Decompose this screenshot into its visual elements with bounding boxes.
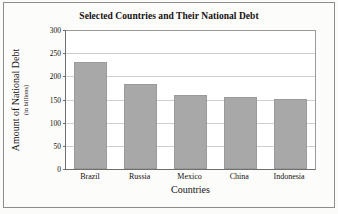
y-tick-label: 100 [37,118,61,127]
x-tick-label-mexico: Mexico [165,172,215,181]
y-tick-label: 150 [37,95,61,104]
y-tick-label: 200 [37,72,61,81]
y-tick-mark [63,123,66,124]
y-tick-label: 300 [37,26,61,35]
x-tick-label-russia: Russia [115,172,165,181]
y-axis-title: Amount of National Debt (in billions) [7,28,33,172]
y-axis-title-units: (in billions) [22,49,29,151]
x-tick-label-indonesia: Indonesia [264,172,314,181]
y-tick-mark [63,169,66,170]
gridline [66,30,315,31]
y-tick-label: 50 [37,141,61,150]
x-axis-title: Countries [65,184,316,195]
plot-area [65,30,316,170]
y-axis-title-main: Amount of National Debt [11,49,22,151]
gridline [66,53,315,54]
bar-brazil [74,62,107,169]
x-tick-label-brazil: Brazil [65,172,115,181]
y-tick-mark [63,146,66,147]
y-tick-mark [63,30,66,31]
chart-title: Selected Countries and Their National De… [0,11,338,21]
y-tick-label: 250 [37,49,61,58]
bar-china [224,97,257,169]
x-tick-label-china: China [214,172,264,181]
y-tick-mark [63,76,66,77]
chart-figure: Selected Countries and Their National De… [0,0,338,214]
bar-russia [124,84,157,169]
bar-indonesia [274,99,307,169]
y-tick-mark [63,53,66,54]
y-axis-tick-labels: 050100150200250300 [37,30,61,170]
y-tick-mark [63,100,66,101]
y-tick-label: 0 [37,165,61,174]
bar-mexico [174,95,207,169]
